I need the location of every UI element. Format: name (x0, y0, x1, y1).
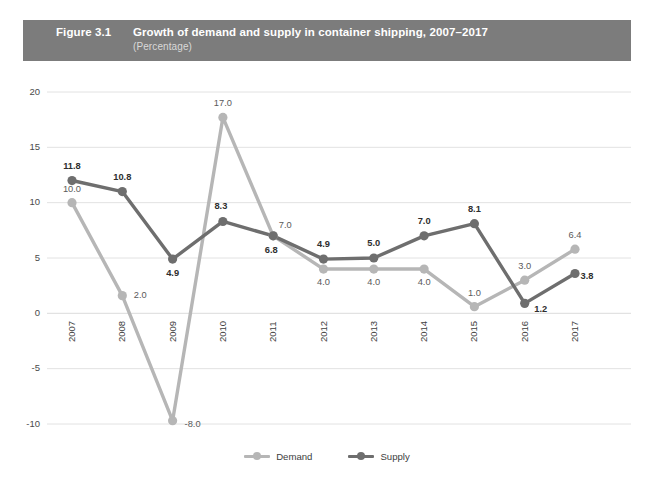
legend-marker-demand-icon (244, 451, 270, 461)
data-point-demand-2016 (520, 276, 529, 285)
x-tick-label-2008: 2008 (116, 321, 127, 342)
data-point-supply-2013 (369, 253, 378, 262)
value-label-supply-2012: 4.9 (304, 239, 344, 249)
legend-label-demand: Demand (276, 451, 312, 462)
data-point-supply-2012 (319, 255, 328, 264)
x-tick-label-2009: 2009 (167, 321, 178, 342)
data-point-supply-2008 (118, 187, 127, 196)
value-label-demand-2013: 4.0 (354, 277, 394, 287)
data-point-demand-2017 (570, 245, 579, 254)
data-point-supply-2015 (470, 219, 479, 228)
value-label-supply-2013: 5.0 (354, 238, 394, 248)
x-tick-label-2015: 2015 (468, 321, 479, 342)
x-tick-label-2016: 2016 (519, 321, 530, 342)
value-label-supply-2016: 1.2 (521, 304, 561, 314)
data-point-supply-2009 (168, 255, 177, 264)
value-label-supply-2015: 8.1 (454, 204, 494, 214)
legend-label-supply: Supply (380, 451, 409, 462)
figure-3-1: Figure 3.1 Growth of demand and supply i… (0, 0, 654, 482)
x-tick-label-2011: 2011 (267, 322, 278, 342)
y-tick-label-5: 5 (14, 252, 40, 263)
value-label-demand-2016: 3.0 (505, 261, 545, 271)
chart-legend: DemandSupply (0, 446, 654, 466)
value-label-demand-2010: 17.0 (203, 98, 243, 108)
legend-item-demand[interactable]: Demand (244, 451, 312, 462)
data-point-demand-2012 (319, 264, 328, 273)
data-point-demand-2014 (420, 264, 429, 273)
chart-plot-area: 20151050-5-10 20072008200920102011201220… (0, 0, 654, 482)
x-tick-label-2007: 2007 (66, 321, 77, 342)
value-label-demand-2017: 6.4 (555, 230, 595, 240)
data-point-supply-2014 (420, 231, 429, 240)
value-label-demand-2014: 4.0 (404, 277, 444, 287)
value-label-supply-2014: 7.0 (404, 216, 444, 226)
x-tick-label-2010: 2010 (217, 321, 228, 342)
x-tick-label-2017: 2017 (569, 321, 580, 342)
value-label-supply-2017: 3.8 (567, 271, 607, 281)
data-point-demand-2015 (470, 302, 479, 311)
value-label-demand-2012: 4.0 (304, 277, 344, 287)
data-point-supply-2011 (269, 231, 278, 240)
value-label-supply-2011: 6.8 (251, 245, 291, 255)
data-point-supply-2010 (218, 217, 227, 226)
value-label-supply-2010: 8.3 (201, 201, 241, 211)
value-label-demand-2008: 2.0 (120, 290, 160, 300)
legend-item-supply[interactable]: Supply (348, 451, 409, 462)
value-label-supply-2009: 4.9 (153, 268, 193, 278)
x-tick-label-2014: 2014 (418, 321, 429, 342)
value-label-demand-2015: 1.0 (454, 288, 494, 298)
data-point-demand-2013 (369, 264, 378, 273)
value-label-supply-2007: 11.8 (52, 161, 92, 171)
value-label-supply-2008: 10.8 (102, 172, 142, 182)
data-point-demand-2007 (67, 198, 76, 207)
x-tick-label-2012: 2012 (318, 321, 329, 342)
value-label-demand-2007: 10.0 (52, 184, 92, 194)
value-label-demand-2009: -8.0 (173, 419, 213, 429)
y-tick-label-15: 15 (14, 141, 40, 152)
data-point-demand-2010 (218, 113, 227, 122)
legend-marker-supply-icon (348, 451, 374, 461)
y-tick-label-20: 20 (14, 86, 40, 97)
y-tick-label-neg5: -5 (14, 362, 40, 373)
y-tick-label-10: 10 (14, 196, 40, 207)
y-tick-label-0: 0 (14, 307, 40, 318)
y-tick-label-neg10: -10 (14, 418, 40, 429)
value-label-demand-2011: 7.0 (265, 220, 305, 230)
x-tick-label-2013: 2013 (368, 321, 379, 342)
